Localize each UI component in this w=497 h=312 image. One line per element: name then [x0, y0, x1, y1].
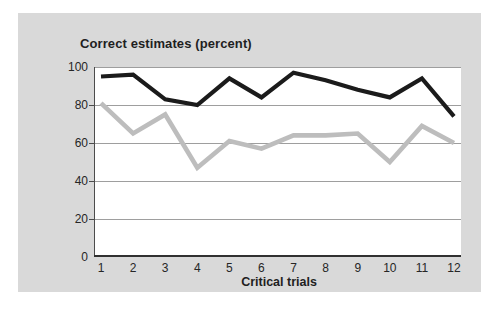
- x-tick-label: 12: [443, 261, 465, 275]
- line-chart-svg: [94, 67, 461, 257]
- series-black-line: [101, 73, 454, 117]
- figure-canvas: Correct estimates (percent) 020406080100…: [0, 0, 497, 312]
- x-tick-label: 9: [347, 261, 369, 275]
- x-tick-label: 11: [411, 261, 433, 275]
- x-tick-label: 3: [154, 261, 176, 275]
- plot-area: [94, 67, 461, 257]
- x-tick-label: 7: [283, 261, 305, 275]
- x-tick-label: 2: [122, 261, 144, 275]
- y-tick-label: 60: [58, 136, 88, 150]
- y-tick-label: 20: [58, 212, 88, 226]
- x-tick-label: 4: [186, 261, 208, 275]
- x-tick-label: 8: [315, 261, 337, 275]
- x-tick-label: 5: [218, 261, 240, 275]
- y-tick-mark: [89, 219, 94, 220]
- y-tick-label: 80: [58, 98, 88, 112]
- y-tick-label: 100: [58, 60, 88, 74]
- y-tick-label: 40: [58, 174, 88, 188]
- chart-title: Correct estimates (percent): [80, 36, 252, 51]
- y-tick-mark: [89, 105, 94, 106]
- x-axis-title: Critical trials: [198, 275, 360, 289]
- x-tick-label: 6: [250, 261, 272, 275]
- y-tick-label: 0: [58, 250, 88, 264]
- chart-panel: Correct estimates (percent) 020406080100…: [18, 13, 481, 292]
- series-gray-line: [101, 103, 454, 168]
- y-tick-mark: [89, 181, 94, 182]
- x-tick-label: 1: [90, 261, 112, 275]
- x-tick-label: 10: [379, 261, 401, 275]
- y-tick-mark: [89, 143, 94, 144]
